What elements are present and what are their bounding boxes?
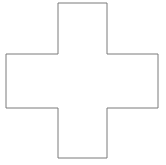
cross-shape-canvas xyxy=(0,0,166,165)
cross-shape-svg xyxy=(0,0,166,165)
